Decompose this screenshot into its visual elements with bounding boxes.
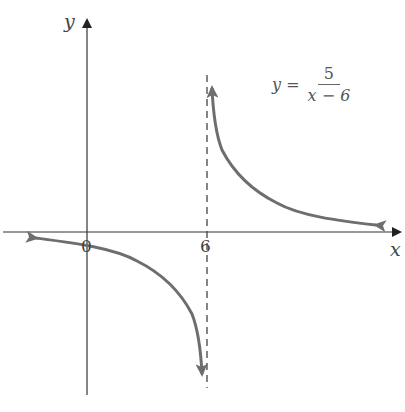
equation-lhs: y = [272,75,300,94]
x-axis-label: x [390,238,401,260]
equation-numerator: 5 [318,64,340,85]
tick-label-6: 6 [200,236,211,256]
origin-label: 0 [81,236,92,256]
equation-label: y = 5 x − 6 [272,64,350,105]
equation-denominator: x − 6 [308,85,351,105]
y-axis-label: y [64,10,75,32]
equation-fraction: 5 x − 6 [308,64,351,105]
graph-canvas [0,0,405,412]
curve-right-branch [212,88,376,225]
curve-left-branch [36,238,202,374]
